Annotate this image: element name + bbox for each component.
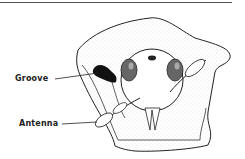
groove-label: Groove (15, 74, 48, 83)
ocellus (148, 56, 156, 61)
antenna-label: Antenna (19, 119, 58, 128)
antenna-leader-line (62, 122, 97, 124)
right-compound-eye (167, 59, 183, 81)
left-compound-eye (121, 59, 137, 81)
